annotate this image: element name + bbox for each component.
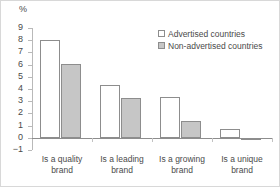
y-axis-tick-label: 4 <box>18 83 23 94</box>
y-axis-tick-label: 2 <box>18 107 23 118</box>
y-axis-tick: 0 <box>28 138 32 139</box>
y-axis-tick: 7 <box>28 52 32 53</box>
y-axis-unit-label: % <box>19 4 27 14</box>
y-axis-tick: 8 <box>28 40 32 41</box>
y-axis-tick-label: 5 <box>18 71 23 82</box>
x-axis-category-label: Is a growing brand <box>152 154 212 176</box>
x-axis-category-label: Is a quality brand <box>32 154 92 176</box>
bar-advertised <box>220 129 240 138</box>
bar-advertised <box>160 97 180 138</box>
bar-nonadvertised <box>61 64 81 138</box>
y-axis-tick-label: 0 <box>18 132 23 143</box>
y-axis-tick: 9 <box>28 28 32 29</box>
legend-label: Non-advertised countries <box>168 41 263 51</box>
y-axis-tick: 5 <box>28 77 32 78</box>
y-axis-tick: 3 <box>28 101 32 102</box>
bar-advertised <box>100 85 120 137</box>
y-axis-tick-label: 8 <box>18 34 23 45</box>
y-axis-tick-label: 3 <box>18 95 23 106</box>
x-axis-category-label: Is a leading brand <box>92 154 152 176</box>
bar-nonadvertised <box>241 138 261 140</box>
legend-label: Advertised countries <box>168 29 245 39</box>
y-axis-tick-label: 7 <box>18 46 23 57</box>
y-axis-tick: −1 <box>28 150 32 151</box>
legend: Advertised countriesNon-advertised count… <box>158 28 263 52</box>
y-axis-tick-label: 1 <box>18 120 23 131</box>
x-axis-category-label: Is a unique brand <box>212 154 272 176</box>
x-axis-tick <box>152 138 153 142</box>
y-axis-tick: 2 <box>28 113 32 114</box>
legend-swatch-icon <box>158 42 165 49</box>
bar-advertised <box>40 40 60 138</box>
x-axis-tick <box>272 138 273 142</box>
y-axis-tick: 4 <box>28 89 32 90</box>
y-axis-tick: 1 <box>28 126 32 127</box>
y-axis-tick-label: −1 <box>13 144 23 155</box>
y-axis-line <box>32 28 33 150</box>
y-axis-tick-label: 6 <box>18 59 23 70</box>
x-axis-tick <box>212 138 213 142</box>
legend-swatch-icon <box>158 30 165 37</box>
bar-nonadvertised <box>121 98 141 138</box>
y-axis-tick-label: 9 <box>18 22 23 33</box>
y-axis-tick: 6 <box>28 65 32 66</box>
legend-item: Advertised countries <box>158 28 263 39</box>
bar-nonadvertised <box>181 121 201 138</box>
legend-item: Non-advertised countries <box>158 40 263 51</box>
x-axis-tick <box>92 138 93 142</box>
bar-chart-figure: % 9876543210−1 Is a quality brandIs a le… <box>0 0 280 187</box>
